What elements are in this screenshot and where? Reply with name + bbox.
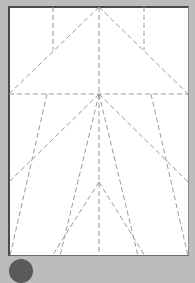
crease-line <box>52 182 99 256</box>
crease-line <box>151 94 188 256</box>
crease-line <box>99 94 138 256</box>
crease-line <box>99 94 188 182</box>
crease-line <box>60 94 99 256</box>
crease-line <box>9 7 99 94</box>
crease-line <box>9 94 99 182</box>
crease-line <box>99 182 145 256</box>
step-badge-icon <box>9 259 33 283</box>
crease-line <box>99 7 188 94</box>
